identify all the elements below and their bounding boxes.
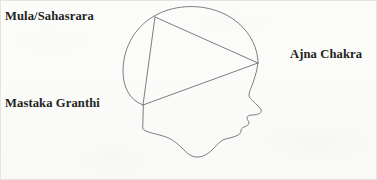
label-mula-sahasrara: Mula/Sahasrara xyxy=(5,9,94,23)
head-outline xyxy=(123,7,261,157)
triangle-edge-mastaka-to-mula xyxy=(143,17,155,105)
figure-canvas: Mula/Sahasrara Mastaka Granthi Ajna Chak… xyxy=(0,0,377,180)
head-profile-diagram xyxy=(0,0,377,180)
label-ajna-chakra: Ajna Chakra xyxy=(290,47,362,61)
label-mastaka-granthi: Mastaka Granthi xyxy=(5,96,100,110)
page-border xyxy=(1,1,377,180)
triangle-edge-mula-to-ajna xyxy=(155,17,258,63)
triangle-edge-ajna-to-mastaka xyxy=(143,63,258,105)
